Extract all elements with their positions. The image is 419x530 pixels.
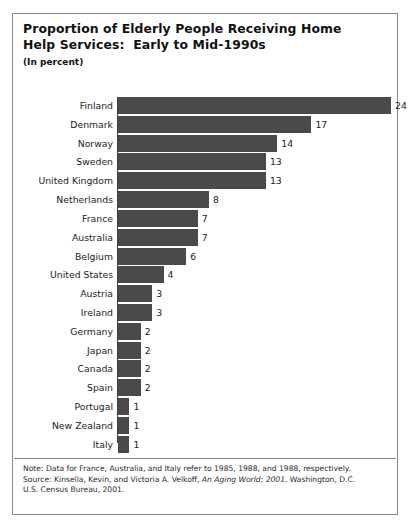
bar-value-label: 24 — [395, 97, 407, 114]
chart-subtitle: (In percent) — [23, 57, 389, 68]
bar-row: France7 — [13, 210, 397, 229]
bar — [118, 135, 277, 152]
category-label: Portugal — [0, 398, 113, 415]
category-label: Italy — [0, 436, 113, 453]
bar-row: Australia7 — [13, 229, 397, 248]
bar-value-label: 7 — [202, 229, 208, 246]
category-label: Denmark — [0, 116, 113, 133]
bar-row: United States4 — [13, 266, 397, 285]
bar — [118, 398, 129, 415]
category-label: Netherlands — [0, 191, 113, 208]
source-line: Source: Kinsella, Kevin, and Victoria A.… — [23, 475, 387, 486]
category-label: Austria — [0, 285, 113, 302]
chart-plot-area: Finland24Denmark17Norway14Sweden13United… — [13, 97, 397, 454]
category-label: Canada — [0, 360, 113, 377]
bar-row: Canada2 — [13, 360, 397, 379]
page-title-line-1: Proportion of Elderly People Receiving H… — [23, 21, 389, 37]
bar-row: Spain2 — [13, 379, 397, 398]
bar — [118, 210, 198, 227]
bar — [118, 379, 141, 396]
category-label: United Kingdom — [0, 172, 113, 189]
bar-row: Denmark17 — [13, 116, 397, 135]
category-label: New Zealand — [0, 417, 113, 434]
bar — [118, 285, 152, 302]
bar-row: Japan2 — [13, 342, 397, 361]
bar-row: New Zealand1 — [13, 417, 397, 436]
note-line: Note: Data for France, Australia, and It… — [23, 464, 387, 475]
source-title: An Aging World: 2001 — [202, 475, 285, 484]
bar-value-label: 6 — [190, 248, 196, 265]
bar-value-label: 2 — [145, 360, 151, 377]
bar-row: Netherlands8 — [13, 191, 397, 210]
bar-row: Italy1 — [13, 436, 397, 455]
bar-row: United Kingdom13 — [13, 172, 397, 191]
source-prefix: Source: Kinsella, Kevin, and Victoria A.… — [23, 475, 202, 484]
bar — [118, 323, 141, 340]
bar-row: Finland24 — [13, 97, 397, 116]
bar — [118, 266, 164, 283]
category-label: Finland — [0, 97, 113, 114]
bar-value-label: 17 — [315, 116, 327, 133]
bar-row: Sweden13 — [13, 153, 397, 172]
bar — [118, 229, 198, 246]
bar — [118, 172, 266, 189]
bar-value-label: 7 — [202, 210, 208, 227]
bar-value-label: 2 — [145, 379, 151, 396]
bar-row: Portugal1 — [13, 398, 397, 417]
page-title-line-2: Help Services: Early to Mid-1990s — [23, 37, 389, 53]
bar-value-label: 13 — [270, 153, 282, 170]
bar-row: Germany2 — [13, 323, 397, 342]
bar — [118, 191, 209, 208]
title-block: Proportion of Elderly People Receiving H… — [23, 21, 389, 68]
bar — [118, 417, 129, 434]
notes-block: Note: Data for France, Australia, and It… — [23, 464, 387, 496]
bar — [118, 248, 186, 265]
bar-row: Norway14 — [13, 135, 397, 154]
bar-value-label: 3 — [156, 304, 162, 321]
category-label: Germany — [0, 323, 113, 340]
bar — [118, 304, 152, 321]
chart-figure: Proportion of Elderly People Receiving H… — [12, 13, 398, 515]
bar-value-label: 1 — [133, 436, 139, 453]
source-suffix: . Washington, D.C. — [285, 475, 355, 484]
bar-value-label: 13 — [270, 172, 282, 189]
category-label: Ireland — [0, 304, 113, 321]
category-label: Sweden — [0, 153, 113, 170]
bar-value-label: 4 — [168, 266, 174, 283]
bar-value-label: 8 — [213, 191, 219, 208]
notes-divider — [14, 458, 396, 459]
category-label: Norway — [0, 135, 113, 152]
category-label: Japan — [0, 342, 113, 359]
bar-value-label: 2 — [145, 342, 151, 359]
source-line-continued: U.S. Census Bureau, 2001. — [23, 485, 387, 496]
bar — [118, 436, 129, 453]
category-label: France — [0, 210, 113, 227]
bar-value-label: 2 — [145, 323, 151, 340]
category-label: United States — [0, 266, 113, 283]
bar — [118, 360, 141, 377]
bar-value-label: 1 — [133, 398, 139, 415]
category-label: Belgium — [0, 248, 113, 265]
bar — [118, 97, 391, 114]
bar — [118, 153, 266, 170]
bar-row: Austria3 — [13, 285, 397, 304]
category-label: Spain — [0, 379, 113, 396]
bar-row: Belgium6 — [13, 248, 397, 267]
bar — [118, 342, 141, 359]
bar — [118, 116, 311, 133]
bar-value-label: 3 — [156, 285, 162, 302]
category-label: Australia — [0, 229, 113, 246]
bar-value-label: 1 — [133, 417, 139, 434]
bar-value-label: 14 — [281, 135, 293, 152]
bar-row: Ireland3 — [13, 304, 397, 323]
